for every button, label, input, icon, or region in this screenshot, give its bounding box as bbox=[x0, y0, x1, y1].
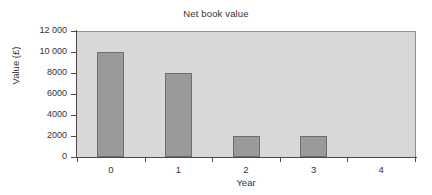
y-tick-label: 8000 bbox=[0, 67, 67, 77]
y-tick-label: 4000 bbox=[0, 109, 67, 119]
x-axis-line bbox=[76, 157, 417, 158]
y-tick-label: 0 bbox=[0, 151, 67, 161]
x-tick-mark bbox=[212, 158, 213, 162]
x-axis-title: Year bbox=[77, 177, 415, 188]
bar bbox=[233, 136, 260, 157]
x-tick-label: 3 bbox=[299, 164, 329, 175]
x-tick-label: 0 bbox=[96, 164, 126, 175]
x-tick-mark bbox=[280, 158, 281, 162]
x-tick-mark bbox=[347, 158, 348, 162]
y-tick-mark bbox=[71, 157, 76, 158]
x-tick-mark bbox=[77, 158, 78, 162]
x-tick-label: 2 bbox=[231, 164, 261, 175]
x-tick-mark bbox=[415, 158, 416, 162]
y-tick-mark bbox=[71, 31, 76, 32]
x-tick-mark bbox=[145, 158, 146, 162]
bar bbox=[97, 52, 124, 157]
y-tick-mark bbox=[71, 52, 76, 53]
y-tick-mark bbox=[71, 73, 76, 74]
y-tick-label: 12 000 bbox=[0, 25, 67, 35]
chart-title: Net book value bbox=[0, 8, 432, 19]
y-tick-label: 10 000 bbox=[0, 46, 67, 56]
y-tick-mark bbox=[71, 136, 76, 137]
x-tick-label: 4 bbox=[366, 164, 396, 175]
y-axis-line bbox=[76, 30, 77, 158]
bar bbox=[300, 136, 327, 157]
bar-chart-figure: Net book value Value (£) 020004000600080… bbox=[0, 0, 432, 195]
bar bbox=[165, 73, 192, 157]
y-tick-mark bbox=[71, 94, 76, 95]
x-tick-label: 1 bbox=[163, 164, 193, 175]
y-tick-label: 6000 bbox=[0, 88, 67, 98]
y-tick-label: 2000 bbox=[0, 130, 67, 140]
y-tick-mark bbox=[71, 115, 76, 116]
